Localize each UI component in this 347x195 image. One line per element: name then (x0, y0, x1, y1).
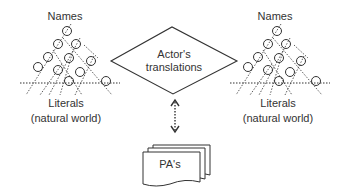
node-icon (72, 40, 81, 49)
right-literals-label: Literals (260, 97, 296, 109)
right-network: Names Literals (natural world) (230, 10, 330, 124)
left-network-nodes (34, 27, 111, 86)
node-icon (282, 40, 291, 49)
node-icon (65, 77, 74, 86)
right-natural-world-label: (natural world) (243, 112, 313, 124)
diagram-canvas: Names Literals (natural world) (0, 0, 347, 195)
node-icon (312, 77, 321, 86)
pa-documents-stack: PA's (143, 145, 210, 186)
node-icon (54, 40, 63, 49)
node-icon (275, 54, 284, 63)
diamond-line1: Actor's (157, 48, 191, 60)
right-names-label: Names (258, 10, 293, 22)
left-network: Names Literals (natural world) (20, 10, 120, 124)
node-icon (275, 77, 284, 86)
actor-translations-diamond: Actor's translations (111, 27, 237, 94)
node-icon (102, 77, 111, 86)
node-icon (286, 68, 295, 77)
node-icon (264, 40, 273, 49)
diamond-line2: translations (146, 61, 203, 73)
left-natural-world-label: (natural world) (31, 112, 101, 124)
node-icon (63, 27, 72, 36)
node-icon (244, 63, 253, 72)
node-icon (65, 54, 74, 63)
documents-label: PA's (159, 158, 181, 170)
node-icon (273, 27, 282, 36)
node-icon (297, 57, 306, 66)
left-names-label: Names (48, 10, 83, 22)
node-icon (34, 63, 43, 72)
node-icon (76, 68, 85, 77)
left-literals-label: Literals (48, 97, 84, 109)
right-network-nodes (244, 27, 321, 86)
node-icon (87, 57, 96, 66)
double-arrow-icon (171, 100, 179, 132)
